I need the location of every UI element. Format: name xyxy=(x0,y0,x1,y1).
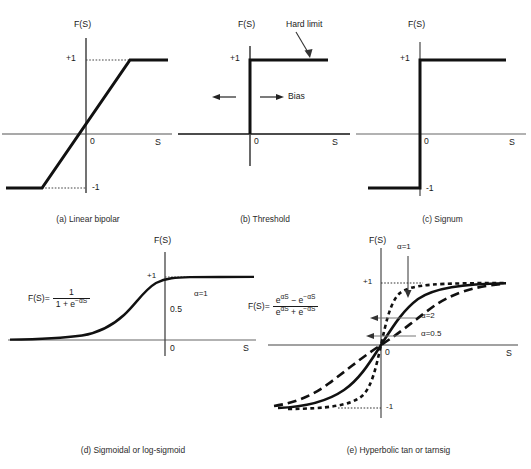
x-axis-label: S xyxy=(332,138,338,147)
panel-caption-d: (d) Sigmoidal or log-sigmoid xyxy=(0,445,266,455)
y-axis-label: F(S) xyxy=(74,20,91,29)
tick-label-plus-one: +1 xyxy=(147,272,156,280)
origin-label: 0 xyxy=(90,137,95,146)
origin-label: 0 xyxy=(170,344,175,353)
y-axis-label: F(S) xyxy=(238,20,255,29)
tick-label-half: 0.5 xyxy=(170,305,182,314)
tick-label-plus-one: +1 xyxy=(363,278,372,286)
tick-label-minus-one: -1 xyxy=(92,183,100,192)
x-axis-label: S xyxy=(509,138,515,147)
panel-linear-bipolar: F(S) S +1 -1 0 (a) Linear bipolar xyxy=(0,18,176,218)
alpha-1-leader-head xyxy=(405,290,412,298)
panel-sigmoidal: F(S) S +1 0.5 0 α=1 F(S)= 1 1 + e−αS (d)… xyxy=(0,240,266,455)
bias-label: Bias xyxy=(288,92,305,101)
tick-label-plus-one: +1 xyxy=(66,54,76,63)
alpha-2-leader-head xyxy=(370,315,378,321)
alpha-05-leader-head xyxy=(366,333,374,339)
plot-threshold xyxy=(176,18,354,208)
plot-signum xyxy=(354,18,531,208)
panel-caption-a: (a) Linear bipolar xyxy=(0,214,176,224)
panel-caption-b: (b) Threshold xyxy=(176,214,354,224)
series-linear-bipolar xyxy=(6,60,168,188)
tick-label-plus-one: +1 xyxy=(230,54,240,63)
y-axis-label: F(S) xyxy=(369,236,386,245)
tick-label-minus-one: -1 xyxy=(386,403,393,411)
panel-threshold: F(S) S +1 0 Hard limit Bias (b) Threshol… xyxy=(176,18,354,218)
x-axis-label: S xyxy=(243,344,249,353)
plot-linear-bipolar xyxy=(0,18,176,208)
panel-signum: F(S) S +1 -1 0 (c) Signum xyxy=(354,18,531,218)
panel-caption-c: (c) Signum xyxy=(354,214,531,224)
origin-label: 0 xyxy=(385,348,390,357)
alpha-label-2: α=2 xyxy=(421,312,435,320)
hard-limit-arrow-head xyxy=(305,49,313,58)
figure-page: F(S) S +1 -1 0 (a) Linear bipolar F(S) S… xyxy=(0,0,531,469)
y-axis-label: F(S) xyxy=(408,20,425,29)
panel-hyperbolic-tan: F(S) S +1 -1 0 α=1 α=2 α=0.5 F(S)= eαS −… xyxy=(266,240,531,455)
bias-arrow-right-head xyxy=(276,94,284,100)
panel-caption-e: (e) Hyperbolic tan or tarnsig xyxy=(266,445,531,455)
sigmoid-formula: F(S)= 1 1 + e−αS xyxy=(28,288,90,309)
formula-lhs: F(S)= xyxy=(28,294,50,303)
y-axis-label: F(S) xyxy=(154,236,171,245)
tanh-formula: F(S)= eαS − e−αS eαS + e−αS xyxy=(248,296,318,317)
x-axis-label: S xyxy=(155,138,161,147)
formula-lhs: F(S)= xyxy=(248,302,270,311)
origin-label: 0 xyxy=(424,137,429,146)
hard-limit-label: Hard limit xyxy=(286,20,322,29)
tick-label-minus-one: -1 xyxy=(426,184,434,193)
series-signum xyxy=(368,60,506,188)
running-header xyxy=(0,0,531,3)
tick-label-plus-one: +1 xyxy=(400,54,410,63)
plot-hyperbolic-tan xyxy=(266,240,531,425)
x-axis-label: S xyxy=(506,349,512,358)
bias-arrow-left-head xyxy=(212,94,220,100)
alpha-label-1: α=1 xyxy=(194,290,208,298)
alpha-label-0-5: α=0.5 xyxy=(421,330,441,338)
formula-denominator: eαS + e−αS xyxy=(273,306,319,317)
origin-label: 0 xyxy=(254,137,259,146)
alpha-label-1: α=1 xyxy=(397,243,411,251)
formula-denominator: 1 + e−αS xyxy=(53,298,90,309)
